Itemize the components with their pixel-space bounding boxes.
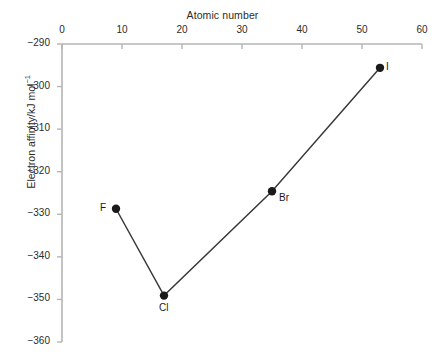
data-point-marker[interactable] (376, 64, 384, 72)
data-point-marker[interactable] (160, 291, 168, 299)
chart-container: Atomic number Electron affinity/kJ mol−1… (0, 0, 445, 363)
series-group (112, 64, 384, 300)
series-line (116, 68, 380, 296)
data-point-marker[interactable] (268, 187, 276, 195)
axes-group (57, 44, 422, 342)
plot-area (0, 0, 445, 363)
data-point-marker[interactable] (112, 205, 120, 213)
